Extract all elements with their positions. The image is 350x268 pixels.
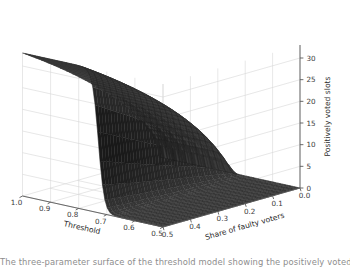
z-tick-label: 25 [307, 75, 316, 84]
y-tick-label: 0.4 [189, 222, 201, 231]
y-tick-label: 0.5 [162, 230, 173, 239]
caption-fragment-text: The three-parameter surface of the thres… [0, 258, 350, 267]
x-tick-label: 0.8 [67, 210, 79, 219]
z-tick-labels: 051015202530 [307, 54, 317, 193]
x-tick-label: 1.0 [11, 198, 23, 207]
y-tick-label: 0.2 [244, 207, 255, 216]
z-tick-label: 5 [307, 162, 312, 171]
z-tick-label: 10 [307, 140, 317, 149]
caption-sliver: The three-parameter surface of the thres… [0, 258, 350, 268]
x-tick-label: 0.9 [39, 204, 51, 213]
x-tick-label: 0.7 [95, 217, 106, 226]
z-tick-label: 20 [307, 97, 317, 106]
x-tick-label: 0.6 [123, 223, 135, 232]
y-tick-label: 0.1 [271, 199, 282, 208]
y-tick-label: 0.3 [217, 214, 228, 223]
z-tick-label: 0 [307, 184, 312, 193]
surface-plot-canvas: 1.00.90.80.70.60.50.50.40.30.20.10.00510… [0, 0, 350, 268]
z-axis-title: Positively voted slots [323, 76, 332, 156]
z-tick-label: 30 [307, 54, 317, 63]
surface-plot-figure: 1.00.90.80.70.60.50.50.40.30.20.10.00510… [0, 0, 350, 268]
z-tick-label: 15 [307, 119, 316, 128]
